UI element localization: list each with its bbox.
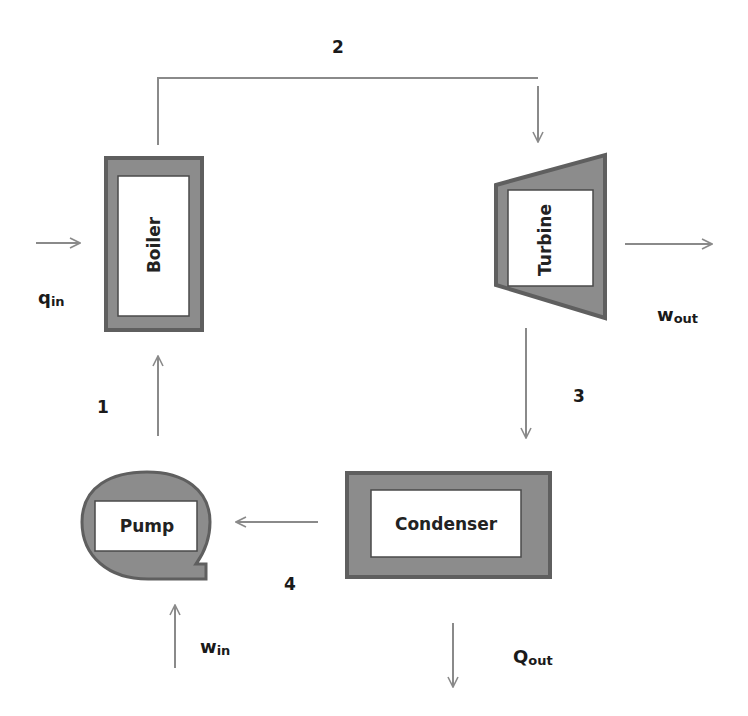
pipe-boiler-to-turbine [158,78,538,145]
w-in-label: win [200,636,230,658]
w-out-label: wout [657,304,698,326]
pump-label: Pump [120,516,174,536]
condenser: Condenser [347,473,550,577]
state-4-label: 4 [284,574,296,594]
state-3-label: 3 [573,386,585,406]
state-2-label: 2 [332,37,344,57]
turbine: Turbine [496,155,605,318]
condenser-label: Condenser [395,514,498,534]
pump: Pump [82,472,210,579]
boiler-label: Boiler [144,216,164,273]
rankine-cycle-diagram: Boiler Turbine Condenser Pump [0,0,748,716]
boiler: Boiler [106,158,202,330]
state-1-label: 1 [97,397,109,417]
q-out-label: Qout [513,646,553,668]
turbine-label: Turbine [535,204,555,276]
q-in-label: qin [38,287,65,309]
